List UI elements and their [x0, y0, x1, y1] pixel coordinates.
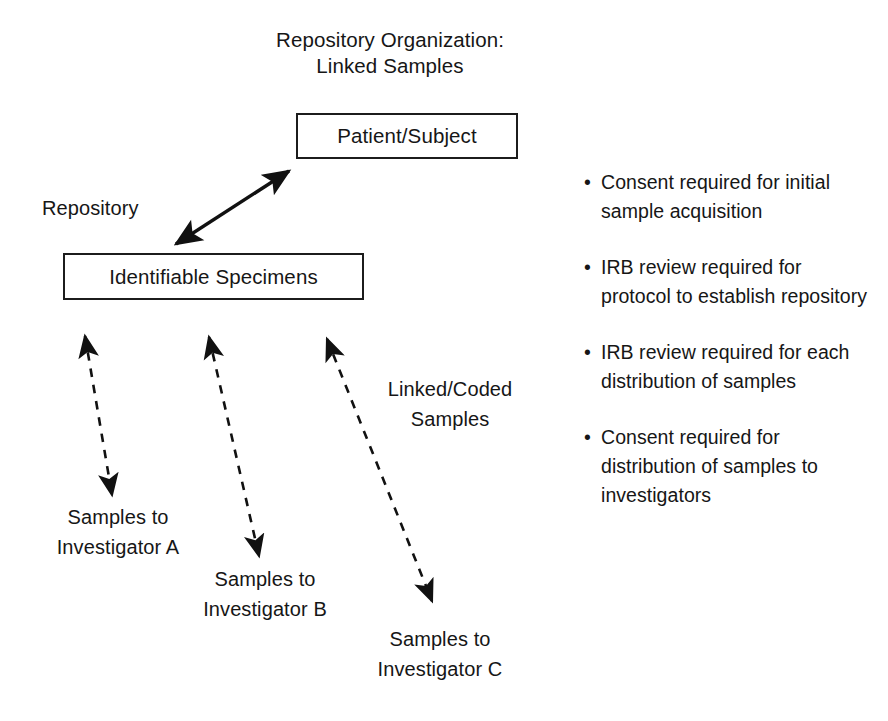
connector-patient-to-specimens [176, 171, 289, 244]
page-title-line-1: Repository Organization: [190, 27, 590, 53]
bullet-icon: • [584, 253, 600, 282]
node-box-patient-subject-label: Patient/Subject [337, 124, 476, 148]
bullet-icon: • [584, 168, 600, 197]
node-box-identifiable-specimens[interactable]: Identifiable Specimens [63, 253, 364, 300]
note-item: • IRB review required for protocol to es… [584, 253, 874, 311]
label-repository-text: Repository [42, 193, 139, 223]
requirements-notes-list: • Consent required for initial sample ac… [584, 168, 874, 510]
note-item-text: Consent required for distribution of sam… [584, 423, 874, 510]
note-item: • Consent required for distribution of s… [584, 423, 874, 510]
label-samples-to-investigator-a-line-2: Investigator A [38, 532, 198, 562]
connector-specimens-to-investigator-b [209, 337, 259, 556]
note-item: • IRB review required for each distribut… [584, 338, 874, 396]
node-box-identifiable-specimens-label: Identifiable Specimens [109, 265, 317, 289]
label-samples-to-investigator-a-line-1: Samples to [38, 502, 198, 532]
note-item-text: Consent required for initial sample acqu… [584, 168, 874, 226]
label-repository: Repository [42, 193, 139, 223]
connector-specimens-to-investigator-a [85, 336, 112, 495]
label-samples-to-investigator-b-line-1: Samples to [185, 564, 345, 594]
label-samples-to-investigator-c: Samples to Investigator C [360, 624, 520, 684]
label-linked-coded-samples-line-1: Linked/Coded [368, 374, 532, 404]
page-title: Repository Organization: Linked Samples [190, 27, 590, 79]
bullet-icon: • [584, 338, 600, 367]
bullet-icon: • [584, 423, 600, 452]
label-samples-to-investigator-a: Samples to Investigator A [38, 502, 198, 562]
label-linked-coded-samples-line-2: Samples [368, 404, 532, 434]
note-item-text: IRB review required for each distributio… [584, 338, 874, 396]
diagram-canvas: Repository Organization: Linked Samples … [0, 0, 888, 721]
label-samples-to-investigator-c-line-2: Investigator C [360, 654, 520, 684]
label-linked-coded-samples: Linked/Coded Samples [368, 374, 532, 434]
label-samples-to-investigator-b-line-2: Investigator B [185, 594, 345, 624]
node-box-patient-subject[interactable]: Patient/Subject [296, 113, 518, 159]
label-samples-to-investigator-b: Samples to Investigator B [185, 564, 345, 624]
note-item: • Consent required for initial sample ac… [584, 168, 874, 226]
page-title-line-2: Linked Samples [190, 53, 590, 79]
note-item-text: IRB review required for protocol to esta… [584, 253, 874, 311]
label-samples-to-investigator-c-line-1: Samples to [360, 624, 520, 654]
